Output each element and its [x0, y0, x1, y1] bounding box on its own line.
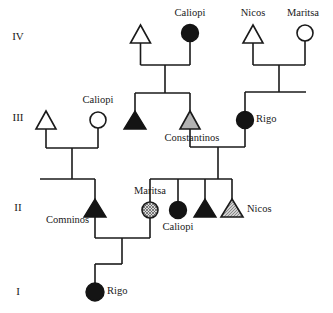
symbol-iii-male-1[interactable] — [36, 111, 56, 129]
name-label-caliopi-iv: Caliopi — [175, 7, 206, 18]
symbol-ii-male-nicos[interactable] — [221, 199, 243, 217]
generation-label-iv: IV — [12, 30, 24, 42]
name-label-comninos: Comninos — [46, 214, 89, 225]
name-label-maritsa-ii: Maritsa — [134, 185, 166, 196]
name-label-nicos-iv: Nicos — [241, 7, 266, 18]
symbol-ii-female-caliopi[interactable] — [170, 202, 187, 219]
name-label-constantinos: Constantinos — [165, 132, 220, 143]
symbol-iii-male-affected[interactable] — [124, 111, 146, 129]
generation-label-i: I — [16, 285, 20, 297]
generation-label-iii: III — [13, 111, 24, 123]
symbol-iv-male-1[interactable] — [131, 25, 151, 43]
generation-labels: IV III II I — [12, 30, 24, 297]
name-label-caliopi-iii: Caliopi — [83, 94, 114, 105]
symbol-iv-female-maritsa[interactable] — [297, 25, 313, 41]
symbol-iii-female-caliopi[interactable] — [90, 112, 106, 128]
symbol-ii-male-affected[interactable] — [194, 199, 216, 217]
pedigree-connectors — [40, 41, 306, 285]
pedigree-diagram: IV III II I Caliopi Nicos Maritsa Caliop… — [0, 0, 333, 313]
person-name-labels: Caliopi Nicos Maritsa Caliopi Constantin… — [46, 7, 319, 296]
symbol-i-female-rigo[interactable] — [86, 283, 104, 301]
pedigree-symbols — [36, 25, 313, 302]
name-label-maritsa-iv: Maritsa — [287, 7, 319, 18]
name-label-rigo-i: Rigo — [107, 285, 127, 296]
symbol-ii-female-maritsa[interactable] — [142, 202, 158, 218]
name-label-nicos-ii: Nicos — [247, 203, 272, 214]
generation-label-ii: II — [14, 201, 22, 213]
symbol-iv-female-caliopi[interactable] — [182, 25, 199, 42]
name-label-caliopi-ii: Caliopi — [163, 221, 194, 232]
pedigree-chart: IV III II I Caliopi Nicos Maritsa Caliop… — [0, 0, 333, 313]
name-label-rigo-iii: Rigo — [256, 113, 276, 124]
symbol-iv-male-nicos[interactable] — [243, 25, 263, 43]
symbol-iii-female-rigo[interactable] — [237, 112, 254, 129]
symbol-iii-male-constantinos[interactable] — [180, 111, 200, 129]
